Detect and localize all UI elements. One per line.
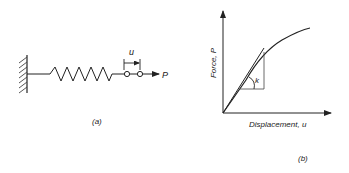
- figure-a: P u (a): [19, 47, 168, 126]
- force-displacement-curve: [223, 28, 310, 113]
- caption-a: (a): [92, 117, 102, 126]
- x-axis-label: Displacement, u: [249, 120, 307, 129]
- y-axis-label: Force, P: [209, 47, 218, 78]
- displacement-label-a: u: [129, 47, 134, 57]
- angle-arc-icon: [249, 77, 254, 89]
- node-1-icon: [124, 71, 129, 76]
- caption-b: (b): [298, 154, 308, 163]
- spring-diagram-figure: P u (a) k Force, P Displacement, u (b): [0, 0, 349, 173]
- figure-b: k Force, P Displacement, u (b): [209, 11, 331, 163]
- force-label: P: [162, 70, 168, 80]
- node-2-icon: [137, 71, 142, 76]
- stiffness-label: k: [255, 76, 260, 85]
- fixed-wall-icon: [19, 55, 27, 93]
- spring-icon: [50, 67, 124, 81]
- displacement-bracket-icon: [124, 59, 140, 70]
